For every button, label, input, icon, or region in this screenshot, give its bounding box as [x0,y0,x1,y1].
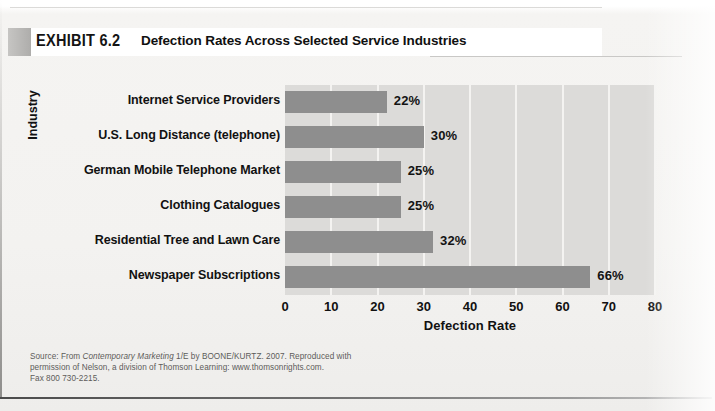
x-tick-80: 80 [635,299,675,314]
category-label: Clothing Catalogues [0,198,280,212]
x-tick-40: 40 [450,299,490,314]
bar[interactable] [285,231,433,253]
source-line-2: permission of Nelson, a division of Thom… [30,362,450,373]
category-label-wrap: Residential Tree and Lawn Care [0,225,280,260]
bar-value-label: 25% [408,163,435,178]
category-label: German Mobile Telephone Market [0,163,280,177]
category-label: U.S. Long Distance (telephone) [0,128,280,142]
source-line-1-post: 1/E by BOONE/KURTZ. 2007. Reproduced wit… [174,352,352,361]
source-line-1-pre: Source: From [30,352,83,361]
x-tick-20: 20 [358,299,398,314]
bar-row[interactable]: 30%U.S. Long Distance (telephone) [285,120,655,155]
bar-value-label: 30% [431,128,458,143]
plot-area: 22%Internet Service Providers30%U.S. Lon… [285,85,655,295]
category-label-wrap: Newspaper Subscriptions [0,260,280,295]
bar[interactable] [285,266,590,288]
category-label: Newspaper Subscriptions [0,268,280,282]
bar[interactable] [285,196,401,218]
bar-chart: Industry 22%Internet Service Providers30… [0,0,715,411]
bar-row[interactable]: 66%Newspaper Subscriptions [285,260,655,295]
x-tick-50: 50 [496,299,536,314]
x-tick-70: 70 [589,299,629,314]
category-label-wrap: Clothing Catalogues [0,190,280,225]
source-line-3: Fax 800 730-2215. [30,373,450,384]
x-tick-10: 10 [311,299,351,314]
category-label-wrap: Internet Service Providers [0,85,280,120]
bar[interactable] [285,126,424,148]
page-bottom-rule [0,397,712,399]
bar[interactable] [285,161,401,183]
source-note: Source: From Contemporary Marketing 1/E … [30,351,450,385]
source-line-1: Source: From Contemporary Marketing 1/E … [30,351,450,362]
bar[interactable] [285,91,387,113]
category-label-wrap: U.S. Long Distance (telephone) [0,120,280,155]
bar-row[interactable]: 32%Residential Tree and Lawn Care [285,225,655,260]
category-label: Residential Tree and Lawn Care [0,233,280,247]
exhibit-page: EXHIBIT 6.2 Defection Rates Across Selec… [0,0,715,411]
bar-value-label: 25% [408,198,435,213]
bar-row[interactable]: 22%Internet Service Providers [285,85,655,120]
x-tick-60: 60 [543,299,583,314]
bar-value-label: 66% [597,268,624,283]
bar-value-label: 32% [440,233,467,248]
x-axis-title: Defection Rate [285,318,655,333]
bar-value-label: 22% [394,93,421,108]
bar-row[interactable]: 25%German Mobile Telephone Market [285,155,655,190]
category-label-wrap: German Mobile Telephone Market [0,155,280,190]
bar-row[interactable]: 25%Clothing Catalogues [285,190,655,225]
source-book-title: Contemporary Marketing [83,352,174,361]
x-tick-0: 0 [265,299,305,314]
category-label: Internet Service Providers [0,93,280,107]
x-tick-30: 30 [404,299,444,314]
